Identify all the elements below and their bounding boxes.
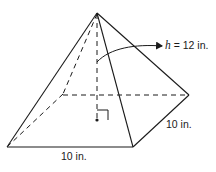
front-edge-label: 10 in. [61, 151, 87, 162]
hidden-edge-back-left-to-front-left [8, 94, 63, 146]
edge-apex-to-back-right [97, 13, 189, 95]
right-edge-label: 10 in. [166, 119, 192, 130]
height-label: h = 12 in. [165, 40, 208, 52]
hidden-edge-apex-to-back-left [63, 14, 97, 94]
edge-apex-to-front-right [97, 13, 133, 147]
height-value: = 12 in. [171, 39, 209, 51]
hidden-edges [8, 14, 188, 146]
visible-edges [7, 13, 189, 147]
base-center-point [95, 118, 98, 121]
edge-apex-to-front-left [7, 13, 97, 147]
pyramid-diagram [0, 0, 216, 172]
right-angle-marker [97, 110, 108, 120]
